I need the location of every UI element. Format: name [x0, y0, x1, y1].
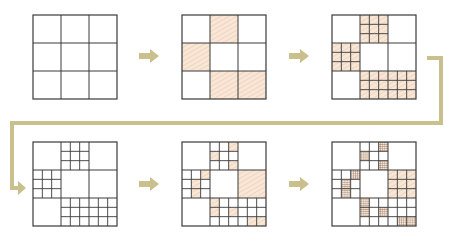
right-arrow-icon: [288, 48, 310, 64]
grid-stage-6: [331, 141, 417, 227]
grid-stage-5: [181, 141, 267, 227]
grid-stage-1: [32, 14, 118, 100]
grid-stage-4: [32, 141, 118, 227]
right-arrow-icon: [138, 176, 160, 192]
right-arrow-icon: [288, 176, 310, 192]
grid-stage-2: [181, 14, 267, 100]
right-arrow-icon: [138, 48, 160, 64]
subdivision-diagram: [0, 0, 453, 239]
grid-stage-3: [331, 14, 417, 100]
